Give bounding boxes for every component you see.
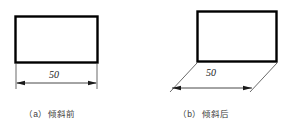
figure-caption-b: （b）倾斜后: [178, 107, 230, 119]
dimension-value-a: 50: [49, 69, 59, 80]
rectangle-shape-a: [16, 17, 98, 63]
figure-caption-a: （a）倾斜前: [24, 107, 76, 119]
dimension-value-b: 50: [206, 67, 216, 78]
rectangle-shape-b: [198, 12, 277, 62]
